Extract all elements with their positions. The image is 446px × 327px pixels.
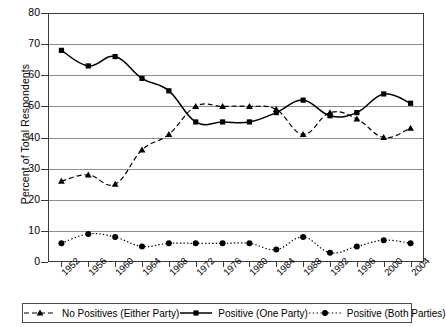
legend-item[interactable]: Positive (One Party): [179, 307, 307, 319]
y-axis-tick: [41, 262, 48, 263]
y-axis-tick-label: 10: [12, 225, 40, 235]
y-axis-tick: [41, 231, 48, 232]
gridline: [49, 106, 423, 107]
plot-area: [48, 13, 424, 262]
square-marker: [194, 310, 199, 315]
y-axis-tick-label: 50: [12, 100, 40, 110]
y-axis-tick: [41, 106, 48, 107]
y-axis-tick: [41, 138, 48, 139]
y-axis-tick: [41, 13, 48, 14]
y-axis-tick-label: 70: [12, 38, 40, 48]
gridline: [49, 44, 423, 45]
legend-item[interactable]: No Positives (Either Party): [23, 307, 179, 319]
gridline: [49, 169, 423, 170]
square-marker: [179, 307, 213, 319]
y-axis-tick-labels: 80706050403020100: [8, 0, 40, 327]
legend-label: No Positives (Either Party): [62, 308, 179, 319]
chart-legend: No Positives (Either Party)Positive (One…: [22, 303, 412, 323]
y-axis-tick: [41, 44, 48, 45]
gridline: [49, 231, 423, 232]
legend-item[interactable]: Positive (Both Parties): [308, 307, 446, 319]
gridline: [49, 138, 423, 139]
gridline: [49, 200, 423, 201]
circle-marker: [322, 310, 328, 316]
triangle-marker: [23, 307, 57, 319]
legend-label: Positive (One Party): [218, 308, 307, 319]
circle-marker: [308, 307, 342, 319]
legend-label: Positive (Both Parties): [347, 308, 446, 319]
gridline: [49, 75, 423, 76]
y-axis-tick-label: 80: [12, 7, 40, 17]
y-axis-tick-label: 60: [12, 69, 40, 79]
y-axis-tick-label: 40: [12, 132, 40, 142]
y-axis-tick-label: 20: [12, 194, 40, 204]
y-axis-tick: [41, 200, 48, 201]
y-axis-tick-label: 0: [12, 256, 40, 266]
y-axis-tick: [41, 169, 48, 170]
y-axis-tick: [41, 75, 48, 76]
y-axis-tick-label: 30: [12, 163, 40, 173]
